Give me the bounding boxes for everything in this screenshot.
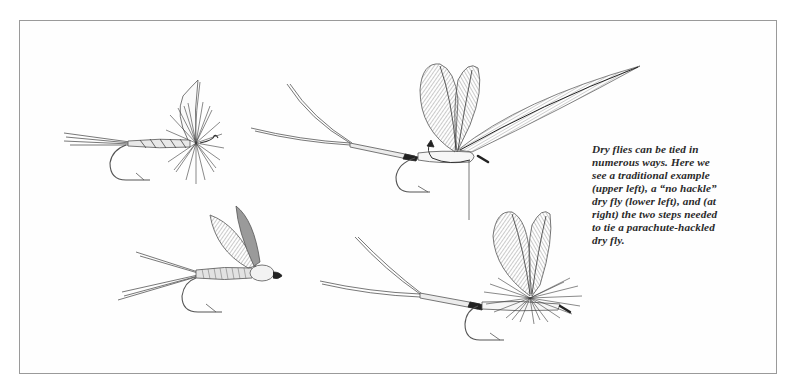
traditional-dry-fly xyxy=(64,80,224,184)
caption-line: right) the two steps needed xyxy=(592,208,762,221)
no-hackle-dry-fly xyxy=(118,206,282,312)
caption-line: dry fly. xyxy=(592,234,762,247)
figure-caption: Dry flies can be tied in numerous ways. … xyxy=(592,143,762,247)
caption-line: dry fly (lower left), and (at xyxy=(592,195,762,208)
caption-line: Dry flies can be tied in xyxy=(592,143,762,156)
caption-line: to tie a parachute-hackled xyxy=(592,221,762,234)
caption-line: see a traditional example xyxy=(592,169,762,182)
caption-line: numerous ways. Here we xyxy=(592,156,762,169)
parachute-step-1 xyxy=(251,64,640,220)
parachute-step-2 xyxy=(320,212,582,340)
caption-line: (upper left), a “no hackle” xyxy=(592,182,762,195)
